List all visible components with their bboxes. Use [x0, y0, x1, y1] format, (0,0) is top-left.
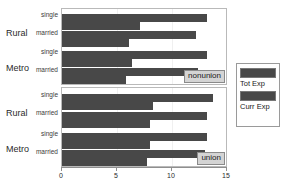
bar-union-metro-married-tot	[62, 150, 205, 158]
group-label-union-metro: Metro	[6, 144, 29, 154]
x-axis-line	[61, 167, 227, 168]
bar-union-rural-single-curr	[62, 102, 153, 110]
legend-swatch-tot-exp	[240, 68, 276, 78]
bar-nonunion-metro-married-curr	[62, 76, 126, 84]
bar-nonunion-rural-single-tot	[62, 14, 207, 22]
legend-label-curr-exp: Curr Exp	[240, 102, 276, 111]
x-tick-5	[116, 167, 117, 171]
bar-nonunion-metro-married-tot	[62, 68, 198, 76]
chart-root: nonunion union Rural Metro single marrie…	[0, 0, 282, 192]
bar-union-metro-married-curr	[62, 158, 147, 166]
panel-union: union	[61, 87, 227, 167]
x-tick-label-0: 0	[59, 172, 63, 179]
row-label-nonunion-metro-single: single	[28, 48, 58, 55]
bar-nonunion-metro-single-tot	[62, 51, 207, 59]
bar-union-metro-single-curr	[62, 141, 150, 149]
group-label-union-rural: Rural	[6, 108, 28, 118]
x-tick-15	[226, 167, 227, 171]
bar-union-rural-single-tot	[62, 94, 213, 102]
x-tick-label-10: 10	[167, 172, 175, 179]
bar-union-rural-married-tot	[62, 112, 207, 120]
x-tick-0	[61, 167, 62, 171]
group-label-nonunion-metro: Metro	[6, 63, 29, 73]
bar-union-rural-married-curr	[62, 120, 150, 128]
x-tick-10	[171, 167, 172, 171]
strip-label-union: union	[197, 152, 225, 165]
row-label-nonunion-rural-married: married	[28, 29, 58, 36]
bar-nonunion-rural-married-tot	[62, 31, 196, 39]
legend-swatch-curr-exp	[240, 91, 276, 101]
x-tick-label-5: 5	[114, 172, 118, 179]
bar-nonunion-rural-single-curr	[62, 22, 140, 30]
bar-nonunion-rural-married-curr	[62, 39, 129, 47]
legend: Tot Exp Curr Exp	[236, 63, 280, 127]
row-label-nonunion-rural-single: single	[28, 11, 58, 18]
bar-nonunion-metro-single-curr	[62, 59, 132, 67]
panel-nonunion: nonunion	[61, 8, 227, 85]
row-label-union-rural-single: single	[28, 91, 58, 98]
legend-label-tot-exp: Tot Exp	[240, 79, 276, 88]
strip-label-nonunion: nonunion	[184, 70, 225, 83]
row-label-union-rural-married: married	[28, 109, 58, 116]
group-label-nonunion-rural: Rural	[6, 28, 28, 38]
bar-union-metro-single-tot	[62, 133, 207, 141]
row-label-union-metro-single: single	[28, 130, 58, 137]
x-tick-label-15: 15	[222, 172, 230, 179]
row-label-union-metro-married: married	[28, 148, 58, 155]
row-label-nonunion-metro-married: married	[28, 66, 58, 73]
